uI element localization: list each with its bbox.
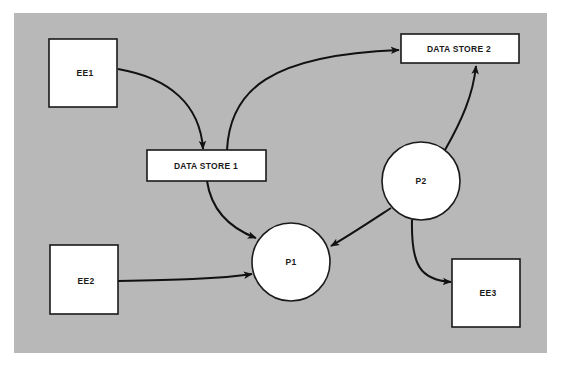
process-p2[interactable]: P2 xyxy=(382,142,460,220)
data-flow-diagram: EE1 EE2 EE3 DATA STORE 1 DATA STORE 2 P1… xyxy=(0,0,568,367)
external-entity-ee2[interactable]: EE2 xyxy=(50,245,118,314)
p2-label: P2 xyxy=(416,176,427,186)
p1-label: P1 xyxy=(286,257,297,267)
external-entity-ee1[interactable]: EE1 xyxy=(49,39,117,107)
data-store-2-label: DATA STORE 2 xyxy=(427,44,491,54)
data-store-1-label: DATA STORE 1 xyxy=(174,161,238,171)
external-entity-ee3[interactable]: EE3 xyxy=(452,259,520,327)
ee1-label: EE1 xyxy=(77,68,94,78)
ee2-label: EE2 xyxy=(78,276,95,286)
data-store-1[interactable]: DATA STORE 1 xyxy=(147,150,266,181)
ee3-label: EE3 xyxy=(480,288,497,298)
data-store-2[interactable]: DATA STORE 2 xyxy=(401,34,519,63)
process-p1[interactable]: P1 xyxy=(252,223,330,301)
